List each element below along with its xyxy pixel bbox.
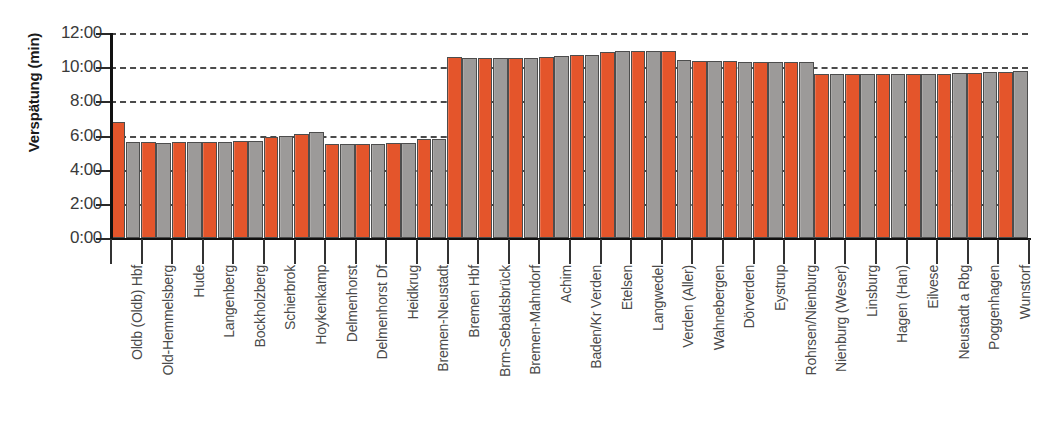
bar <box>233 141 248 238</box>
x-axis-tick <box>875 239 877 264</box>
x-axis-category-label: Wunstorf <box>1018 265 1032 319</box>
x-axis-category-label: Poggenhagen <box>987 265 1001 350</box>
bar <box>952 73 967 238</box>
bar <box>845 74 860 238</box>
x-axis-category-label: Hoykenkamp <box>314 265 328 345</box>
bar <box>371 144 386 238</box>
bar <box>723 61 738 238</box>
y-axis-tick <box>96 170 110 172</box>
bar <box>661 51 676 238</box>
x-axis-tick-marks <box>110 239 1031 265</box>
bar <box>707 61 722 238</box>
bar <box>325 144 340 238</box>
y-axis-tick-label: 0:00 <box>24 228 102 248</box>
bar <box>830 74 845 238</box>
x-axis-tick <box>661 239 663 264</box>
x-axis-category-label: Wahnebergen <box>712 265 726 350</box>
bar <box>539 57 554 238</box>
y-axis-tick <box>96 204 110 206</box>
bar <box>891 74 906 238</box>
x-axis-tick <box>722 239 724 264</box>
bar <box>202 142 217 238</box>
x-axis-tick <box>569 239 571 264</box>
bar <box>860 74 875 238</box>
x-axis-tick <box>844 239 846 264</box>
x-axis-category-label: Eilvese <box>926 265 940 309</box>
x-axis-category-label: Hagen (Han) <box>895 265 909 343</box>
bar <box>156 143 171 238</box>
bar <box>753 62 768 238</box>
y-axis-tick <box>96 33 110 35</box>
x-axis-tick <box>263 239 265 264</box>
y-axis-tick-label: 4:00 <box>24 160 102 180</box>
y-axis-tick-label: 6:00 <box>24 126 102 146</box>
bar <box>340 144 355 238</box>
bar <box>692 61 707 238</box>
bar <box>141 142 156 238</box>
x-axis-tick <box>324 239 326 264</box>
x-axis-category-labels: Oldb (Oldb) HbfOld-HemmelsbergHudeLangen… <box>110 265 1031 425</box>
bars-layer <box>110 33 1028 238</box>
x-axis-tick <box>783 239 785 264</box>
bar <box>462 58 477 238</box>
bar <box>677 60 692 238</box>
bar <box>264 137 279 238</box>
x-axis-tick <box>171 239 173 264</box>
x-axis-tick <box>202 239 204 264</box>
x-axis-tick <box>141 239 143 264</box>
bar <box>172 142 187 238</box>
bar <box>921 74 936 238</box>
x-axis-tick <box>294 239 296 264</box>
bar <box>937 74 952 238</box>
x-axis-category-label: Bockholzberg <box>253 265 267 347</box>
bar <box>554 56 569 238</box>
x-axis-category-label: Hude <box>192 265 206 298</box>
x-axis-category-label: Oldb (Oldb) Hbf <box>130 265 144 360</box>
x-axis-category-label: Eystrup <box>773 265 787 311</box>
x-axis-tick <box>416 239 418 264</box>
x-axis-category-label: Old-Hemmelsberg <box>161 265 175 376</box>
y-axis-tick <box>96 101 110 103</box>
x-axis-category-label: Delmenhorst Df <box>375 265 389 359</box>
bar <box>814 74 829 238</box>
x-axis-category-label: Heidkrug <box>406 265 420 319</box>
y-axis-tick <box>96 67 110 69</box>
bar <box>401 143 416 238</box>
x-axis-tick <box>814 239 816 264</box>
bar <box>738 62 753 238</box>
x-axis-category-label: Verden (Aller) <box>681 265 695 348</box>
x-axis-category-label: Baden/Kr Verden <box>589 265 603 369</box>
x-axis-tick <box>691 239 693 264</box>
bar <box>187 142 202 238</box>
bar <box>983 72 998 238</box>
x-axis-category-label: Dörverden <box>742 265 756 329</box>
x-axis-tick <box>630 239 632 264</box>
bar <box>218 142 233 238</box>
bar <box>447 57 462 238</box>
bar <box>279 136 294 238</box>
delay-bar-chart: Verspätung (min) 0:002:004:006:008:0010:… <box>0 0 1042 427</box>
x-axis-tick <box>508 239 510 264</box>
bar <box>478 58 493 238</box>
x-axis-category-label: Nienburg (Weser) <box>834 265 848 372</box>
bar <box>508 58 523 238</box>
x-axis-tick <box>538 239 540 264</box>
bar <box>126 142 141 238</box>
x-axis-category-label: Schierbrok <box>283 265 297 330</box>
x-axis-category-label: Neustadt a Rbg <box>957 265 971 359</box>
bar <box>631 51 646 238</box>
x-axis-tick <box>967 239 969 264</box>
bar <box>799 62 814 238</box>
x-axis-tick <box>600 239 602 264</box>
bar <box>417 139 432 238</box>
bar <box>998 72 1013 238</box>
y-axis-tick-label: 10:00 <box>24 57 102 77</box>
bar <box>646 51 661 238</box>
bar <box>248 141 263 238</box>
bar <box>784 62 799 238</box>
x-axis-category-label: Rohrsen/Nienburg <box>804 265 818 375</box>
x-axis-category-label: Brm-Sebaldsbrück <box>498 265 512 377</box>
x-axis-tick <box>477 239 479 264</box>
bar <box>906 74 921 238</box>
bar <box>570 55 585 238</box>
